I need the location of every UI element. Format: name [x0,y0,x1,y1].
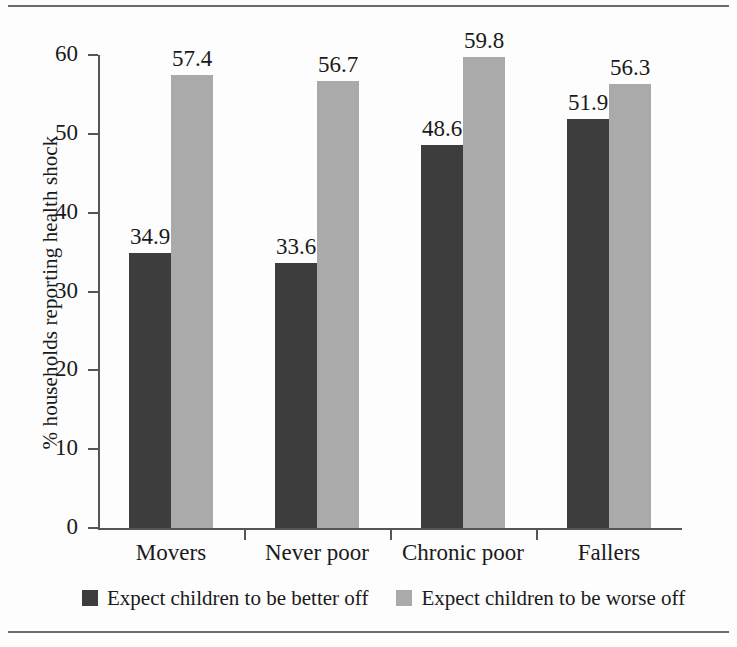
figure-container: % households reporting health shock 0102… [0,0,737,647]
bar-movers-series-1[interactable] [129,253,171,528]
legend-swatch-icon-2 [396,590,412,606]
bar-fallers-series-2[interactable] [609,84,651,528]
legend-swatch-icon-1 [82,590,98,606]
bar-value-label-movers-series-2: 57.4 [157,47,227,70]
bar-movers-series-2[interactable] [171,75,213,528]
category-label-fallers: Fallers [536,540,682,566]
bar-value-label-chronic-poor-series-2: 59.8 [449,29,519,52]
category-label-never-poor: Never poor [244,540,390,566]
bar-chronic-poor-series-1[interactable] [421,145,463,528]
bars-layer: 34.957.433.656.748.659.851.956.3 [0,0,737,528]
bar-never-poor-series-1[interactable] [275,263,317,528]
plot-area: % households reporting health shock 0102… [0,0,737,647]
legend-label-2: Expect children to be worse off [421,586,685,610]
chart-legend: Expect children to be better offExpect c… [82,586,703,610]
x-tick-3 [536,530,538,540]
x-tick-2 [390,530,392,540]
legend-label-1: Expect children to be better off [107,586,368,610]
x-tick-1 [244,530,246,540]
bar-never-poor-series-2[interactable] [317,81,359,528]
category-label-chronic-poor: Chronic poor [390,540,536,566]
legend-item-2[interactable]: Expect children to be worse off [396,586,685,610]
legend-item-1[interactable]: Expect children to be better off [82,586,368,610]
bar-value-label-fallers-series-2: 56.3 [595,56,665,79]
bar-chronic-poor-series-2[interactable] [463,57,505,528]
bar-fallers-series-1[interactable] [567,119,609,528]
bar-value-label-never-poor-series-2: 56.7 [303,53,373,76]
category-label-movers: Movers [98,540,244,566]
